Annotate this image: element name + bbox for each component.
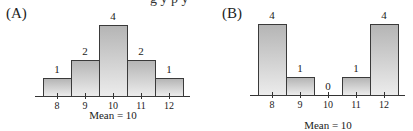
- panel-label: (A): [6, 5, 27, 22]
- x-axis-tick: [300, 92, 301, 98]
- histogram-bar: [71, 60, 100, 97]
- bar-value-label: 1: [43, 63, 71, 75]
- x-axis-tick: [272, 92, 273, 98]
- x-tick-label: 9: [286, 99, 314, 110]
- x-tick-label: 11: [342, 99, 370, 110]
- x-axis-tick: [169, 93, 170, 99]
- bar-value-label: 0: [314, 80, 342, 92]
- x-axis-tick: [113, 93, 114, 99]
- panel-label: (B): [222, 5, 242, 22]
- x-axis-tick: [356, 92, 357, 98]
- bar-value-label: 4: [99, 10, 127, 22]
- cropped-caption-text: g y p y: [150, 0, 189, 7]
- histogram-bar: [370, 24, 399, 96]
- mean-label: Mean = 10: [278, 119, 378, 131]
- histogram-bar: [258, 24, 287, 96]
- bar-value-label: 4: [258, 9, 286, 21]
- bar-value-label: 1: [155, 63, 183, 75]
- bar-value-label: 1: [286, 62, 314, 74]
- bar-value-label: 2: [127, 45, 155, 57]
- x-axis-tick: [57, 93, 58, 99]
- x-tick-label: 12: [370, 99, 398, 110]
- bar-value-label: 1: [342, 62, 370, 74]
- histogram-bar: [99, 25, 128, 97]
- x-tick-label: 8: [258, 99, 286, 110]
- x-axis-tick: [141, 93, 142, 99]
- mean-label: Mean = 10: [63, 109, 163, 121]
- bar-value-label: 4: [370, 9, 398, 21]
- x-tick-label: 10: [314, 99, 342, 110]
- x-axis-tick: [328, 92, 329, 98]
- x-axis-tick: [85, 93, 86, 99]
- histogram-bar: [127, 60, 156, 97]
- bar-value-label: 2: [71, 45, 99, 57]
- x-axis-tick: [384, 92, 385, 98]
